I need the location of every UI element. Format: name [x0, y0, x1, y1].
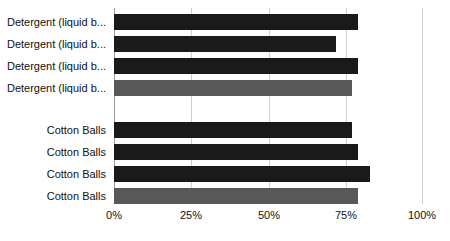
bar-row [114, 58, 358, 74]
category-label: Cotton Balls [47, 188, 106, 204]
bar [114, 36, 336, 52]
x-tick-label: 0% [106, 208, 122, 222]
x-tick-label: 75% [335, 208, 357, 222]
x-tick-label: 100% [408, 208, 436, 222]
category-label: Detergent (liquid b... [7, 36, 106, 52]
x-tick-label: 25% [180, 208, 202, 222]
bars-layer [114, 8, 423, 204]
bar [114, 14, 358, 30]
category-axis: Detergent (liquid b... Detergent (liquid… [0, 8, 110, 204]
bar [114, 122, 352, 138]
plot-area [114, 8, 423, 204]
category-label: Detergent (liquid b... [7, 14, 106, 30]
bar [114, 144, 358, 160]
bar-chart: Detergent (liquid b... Detergent (liquid… [0, 0, 450, 241]
bar-row [114, 36, 336, 52]
bar [114, 58, 358, 74]
bar-row [114, 166, 370, 182]
category-label: Cotton Balls [47, 166, 106, 182]
x-tick-label: 50% [258, 208, 280, 222]
bar-row [114, 80, 352, 96]
bar-row [114, 144, 358, 160]
bar [114, 188, 358, 204]
bar [114, 166, 370, 182]
category-label: Detergent (liquid b... [7, 80, 106, 96]
x-axis: 0% 25% 50% 75% 100% [114, 208, 423, 224]
category-label: Detergent (liquid b... [7, 58, 106, 74]
bar-row [114, 122, 352, 138]
bar [114, 80, 352, 96]
category-label: Cotton Balls [47, 144, 106, 160]
bar-row [114, 14, 358, 30]
bar-row [114, 188, 358, 204]
category-label: Cotton Balls [47, 122, 106, 138]
